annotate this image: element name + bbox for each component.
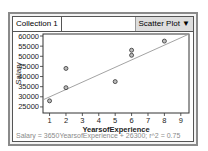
x-tick-label: 6	[129, 116, 133, 125]
data-point[interactable]	[48, 99, 52, 103]
y-tick-label: 50000	[18, 52, 39, 61]
x-tick-label: 2	[64, 116, 68, 125]
x-tick-label: 9	[179, 116, 183, 125]
data-point[interactable]	[130, 53, 134, 57]
plot-area	[43, 34, 189, 113]
scatter-plot: 2500030000350004000045000500005500060000…	[13, 17, 197, 145]
y-tick-label: 55000	[18, 42, 39, 51]
x-tick-label: 4	[97, 116, 101, 125]
x-tick-label: 7	[146, 116, 150, 125]
graph-window: Collection 1 Scatter Plot ▼ 250003000035…	[8, 12, 198, 146]
regression-equation: Salary = 3650YearsofExperience + 26300; …	[16, 132, 180, 139]
x-tick-label: 5	[113, 116, 117, 125]
y-tick-label: 25000	[18, 102, 39, 111]
data-point[interactable]	[64, 86, 68, 90]
y-axis-label: Salary	[14, 62, 23, 85]
graph-panel: Collection 1 Scatter Plot ▼ 250003000035…	[12, 16, 194, 142]
data-point[interactable]	[64, 66, 68, 70]
data-point[interactable]	[113, 80, 117, 84]
x-tick-label: 1	[47, 116, 51, 125]
x-tick-label: 8	[162, 116, 166, 125]
y-tick-label: 60000	[18, 32, 39, 41]
data-point[interactable]	[162, 39, 166, 43]
data-point[interactable]	[130, 48, 134, 52]
x-tick-label: 3	[80, 116, 84, 125]
y-tick-label: 30000	[18, 92, 39, 101]
